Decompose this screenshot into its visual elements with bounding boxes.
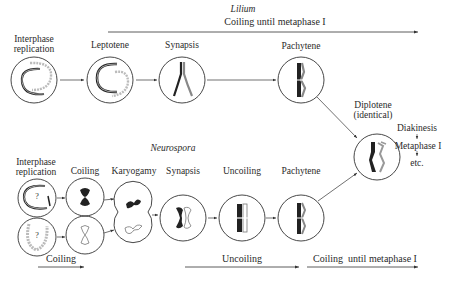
neurospora-coiling-label: Coiling: [63, 166, 107, 176]
etc-label: etc.: [402, 158, 432, 168]
neurospora-coiling-cell-2: [66, 216, 104, 254]
neurospora-pachytene-label: Pachytene: [271, 166, 331, 176]
uncoiling-process-label: Uncoiling: [212, 254, 272, 264]
neurospora-uncoiling-cell: [219, 195, 265, 241]
neurospora-interphase-label-line2: replication: [6, 167, 66, 177]
metaphase-label: Metaphase I: [392, 141, 444, 151]
neurospora-pachytene-cell: [278, 195, 324, 241]
lilium-synapsis-cell: [159, 57, 205, 103]
coiling-process-label: Coiling: [36, 254, 86, 264]
lilium-leptotene-cell: [87, 57, 133, 103]
lilium-interphase-cell: [11, 57, 57, 103]
diakinesis-label: Diakinesis: [392, 123, 442, 133]
neurospora-coiling-cell-1: [66, 178, 104, 216]
neurospora-title: Neurospora: [148, 143, 198, 153]
unknown-marker-1: ?: [32, 192, 42, 202]
arrow: [104, 230, 114, 233]
lilium-title: Lilium: [228, 4, 258, 14]
lilium-pachytene-cell: [278, 57, 324, 103]
arrow: [318, 173, 357, 201]
lilium-interphase-label-line2: replication: [4, 44, 64, 54]
neurospora-synapsis-label: Synapsis: [158, 166, 208, 176]
diplotene-label-line1: Diplotene: [343, 100, 403, 110]
lilium-pachytene-label: Pachytene: [271, 41, 331, 51]
lilium-interphase-label-line1: Interphase: [4, 34, 64, 44]
unknown-marker-2: ?: [32, 231, 42, 241]
meiosis-diagram: [0, 0, 455, 281]
coiling-until-metaphase-label: Coiling until metaphase I: [310, 254, 420, 264]
neurospora-karyogamy-label: Karyogamy: [106, 166, 162, 176]
neurospora-karyogamy-cell: [114, 181, 152, 242]
lilium-synapsis-label: Synapsis: [152, 40, 212, 50]
arrow: [104, 199, 114, 200]
neurospora-synapsis-cell: [160, 195, 206, 241]
neurospora-uncoiling-label: Uncoiling: [217, 166, 267, 176]
lilium-leptotene-label: Leptotene: [80, 40, 140, 50]
lilium-process-label: Coiling until metaphase I: [170, 17, 380, 27]
neurospora-interphase-label-line1: Interphase: [6, 157, 66, 167]
diplotene-label-line2: (identical): [343, 110, 403, 120]
